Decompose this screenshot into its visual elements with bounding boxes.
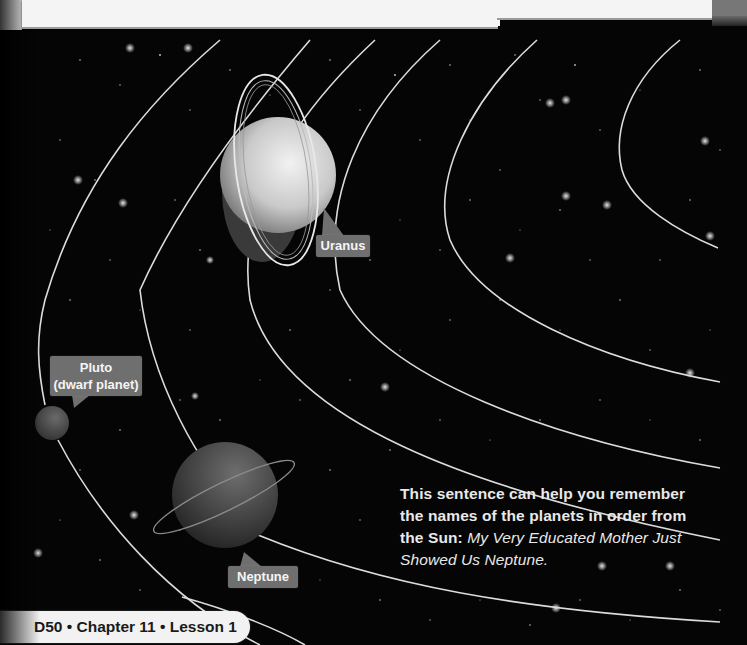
page-footer-text: D50 • Chapter 11 • Lesson 1 bbox=[34, 611, 237, 643]
pluto-label-name: Pluto bbox=[50, 359, 142, 376]
top-right-edge bbox=[712, 0, 747, 16]
neptune-planet bbox=[148, 442, 300, 548]
top-left-edge bbox=[0, 0, 22, 30]
top-right-edge-shadow bbox=[712, 16, 747, 26]
orbit-3 bbox=[335, 40, 720, 468]
neptune-callout-pointer bbox=[240, 552, 262, 567]
pluto-planet bbox=[35, 406, 69, 440]
mnemonic-caption: This sentence can help you remember the … bbox=[400, 483, 700, 571]
left-edge-shadow bbox=[0, 0, 40, 645]
neptune-label: Neptune bbox=[228, 566, 298, 588]
pluto-label: Pluto (dwarf planet) bbox=[50, 356, 142, 396]
top-page-panel-right bbox=[497, 0, 712, 20]
top-page-panel-fill bbox=[22, 0, 500, 26]
uranus-callout-pointer bbox=[322, 208, 344, 236]
orbit-4 bbox=[248, 40, 720, 540]
pluto-callout-pointer bbox=[72, 395, 90, 408]
orbit-2 bbox=[445, 40, 720, 382]
uranus-label: Uranus bbox=[316, 235, 370, 257]
solar-system-diagram: Uranus Neptune Pluto (dwarf planet) This… bbox=[0, 0, 747, 645]
pluto-label-note: (dwarf planet) bbox=[50, 376, 142, 393]
